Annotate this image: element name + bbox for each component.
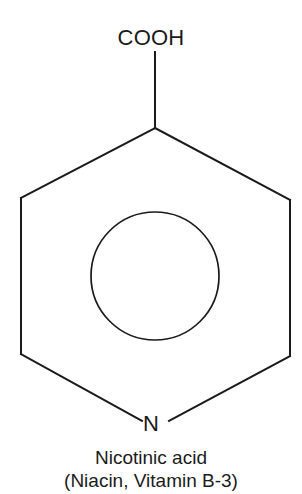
ring-edge-top-left — [21, 128, 155, 198]
aromatic-ring-circle — [91, 212, 219, 340]
caption-alternate-names: (Niacin, Vitamin B-3) — [0, 469, 302, 492]
ring-edge-bottom-left — [21, 354, 142, 421]
chemical-structure-figure: COOH N Nicotinic acid (Niacin, Vitamin B… — [0, 0, 302, 494]
carboxyl-group-label: COOH — [0, 27, 302, 49]
ring-edge-top-right — [155, 128, 290, 200]
caption-compound-name: Nicotinic acid — [0, 446, 302, 469]
nitrogen-atom-label: N — [0, 413, 302, 435]
ring-edge-bottom-right — [169, 356, 290, 421]
figure-caption: Nicotinic acid (Niacin, Vitamin B-3) — [0, 446, 302, 492]
